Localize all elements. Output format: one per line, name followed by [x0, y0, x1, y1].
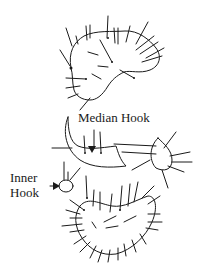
median-hook-label: Median Hook — [78, 110, 150, 125]
lower-lobe — [62, 176, 162, 262]
upper-lobe — [60, 16, 164, 110]
right-lobe — [114, 132, 192, 188]
inner-hook — [50, 162, 80, 192]
diagram-canvas: Median Hook Inner Hook — [0, 0, 204, 271]
median-hook-arrow — [88, 146, 96, 153]
diagram-drawing — [0, 0, 204, 271]
inner-hook-label: Inner Hook — [10, 170, 50, 200]
inner-hook-arrow — [53, 182, 60, 190]
